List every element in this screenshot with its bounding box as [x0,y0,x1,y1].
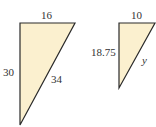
large-triangle-hypotenuse-label: 34 [51,73,63,85]
small-triangle-left-label: 18.75 [91,46,116,58]
large-triangle-left-label: 30 [3,66,15,78]
small-triangle-hypotenuse-label: y [141,54,147,66]
large-triangle [20,23,75,125]
large-triangle-top-label: 16 [41,9,53,21]
small-triangle-top-label: 10 [131,9,143,21]
small-triangle [119,23,155,88]
similar-triangles-diagram: 16 30 34 10 18.75 y [0,0,156,127]
